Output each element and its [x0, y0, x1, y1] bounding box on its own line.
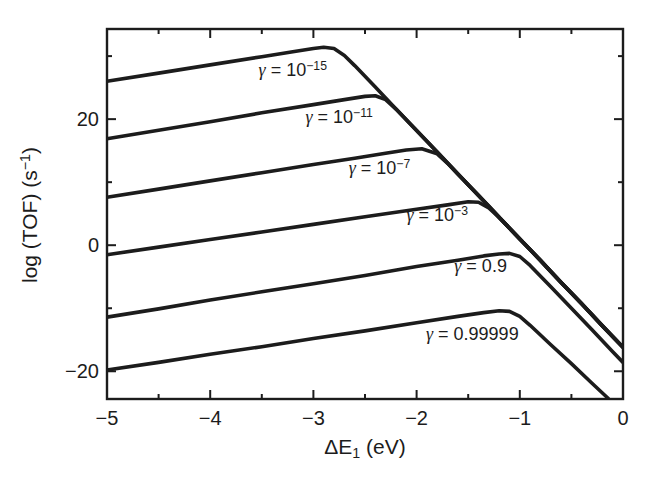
- curve-gamma-0p99999: [107, 311, 613, 404]
- curve-gamma-1e-7: [107, 149, 623, 347]
- plot-frame: [107, 29, 623, 399]
- figure-volcano-plot: −5−4−3−2−10 200−20 γ = 10−15γ = 10−11γ =…: [0, 0, 656, 482]
- curve-gamma-1e-11: [107, 96, 623, 347]
- plot-area: [0, 0, 656, 482]
- curve-gamma-0p9: [107, 253, 623, 362]
- curve-gamma-1e-15: [107, 47, 623, 347]
